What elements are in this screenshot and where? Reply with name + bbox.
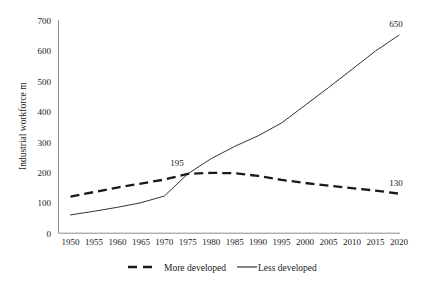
x-tick-label: 1975 — [179, 237, 198, 247]
x-tick-label: 1960 — [108, 237, 127, 247]
x-tick-label: 1990 — [249, 237, 268, 247]
x-tick-label: 1980 — [202, 237, 221, 247]
x-tick-label: 1950 — [62, 237, 81, 247]
legend-label: More developed — [164, 263, 226, 273]
series-more-developed — [71, 173, 399, 197]
x-tick-label: 1985 — [226, 237, 245, 247]
x-axis-tick-labels: 1950 1955 1960 1965 1970 1975 1980 1985 … — [62, 237, 409, 247]
y-axis-tick-labels: 700 600 500 400 300 200 100 0 — [38, 16, 52, 239]
x-tick-label: 2005 — [320, 237, 339, 247]
y-tick-label: 0 — [47, 229, 52, 239]
y-axis-title: Industrial workforce m — [18, 82, 28, 170]
x-tick-label: 1965 — [132, 237, 151, 247]
chart-figure: Industrial workforce m 700 600 500 400 3… — [0, 0, 421, 284]
y-tick-label: 500 — [38, 77, 52, 87]
y-tick-label: 600 — [38, 46, 52, 56]
y-tick-label: 100 — [38, 198, 52, 208]
y-tick-label: 400 — [38, 107, 52, 117]
y-tick-label: 200 — [38, 168, 52, 178]
x-tick-label: 2015 — [366, 237, 385, 247]
legend-label: Less developed — [258, 263, 317, 273]
chart-legend: More developed Less developed — [128, 263, 317, 273]
line-chart: Industrial workforce m 700 600 500 400 3… — [0, 0, 421, 284]
x-tick-label: 1995 — [273, 237, 292, 247]
legend-item-less-developed[interactable]: Less developed — [237, 263, 317, 273]
y-tick-label: 700 — [38, 16, 52, 26]
annotation-peak-more-developed: 195 — [170, 158, 184, 168]
x-tick-label: 2010 — [343, 237, 362, 247]
annotation-end-more-developed: 130 — [389, 178, 403, 188]
legend-item-more-developed[interactable]: More developed — [128, 263, 226, 273]
annotation-end-less-developed: 650 — [389, 19, 403, 29]
y-tick-label: 300 — [38, 138, 52, 148]
x-tick-label: 1970 — [155, 237, 174, 247]
x-tick-label: 2000 — [296, 237, 315, 247]
x-tick-label: 2020 — [390, 237, 409, 247]
x-tick-label: 1955 — [85, 237, 104, 247]
